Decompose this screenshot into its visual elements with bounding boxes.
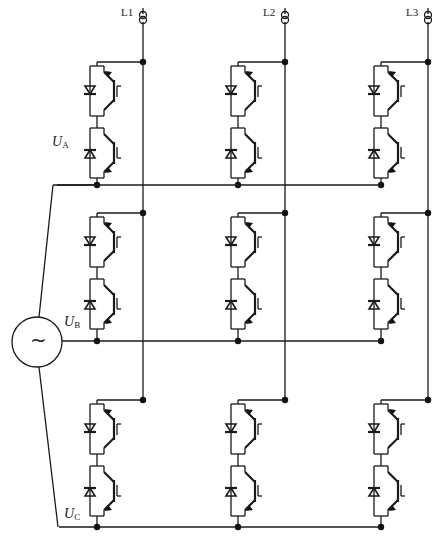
phase-label-symbol: U (64, 506, 74, 521)
lower-switch-igbt-icon (368, 279, 405, 329)
output-line-l3 (425, 8, 432, 400)
lower-switch-igbt-icon (368, 128, 405, 178)
junction-dot (425, 397, 431, 403)
bidirectional-switch (368, 397, 431, 530)
upper-switch-igbt-icon (225, 66, 262, 116)
junction-dot (140, 397, 146, 403)
bidirectional-switch (84, 397, 146, 530)
phase-label-b: UB (64, 314, 80, 330)
bidirectional-switch (84, 59, 146, 188)
output-label-l1: L1 (121, 6, 133, 18)
upper-switch-igbt-icon (368, 66, 405, 116)
phase-label-symbol: U (64, 314, 74, 329)
upper-switch-igbt-icon (84, 66, 121, 116)
source-lead-c (39, 367, 58, 527)
lower-switch-igbt-icon (225, 128, 262, 178)
source-lead-a (39, 185, 53, 317)
junction-dot (425, 210, 431, 216)
junction-dot (425, 59, 431, 65)
circuit-schematic (0, 0, 443, 539)
upper-switch-igbt-icon (225, 217, 262, 267)
lower-switch-igbt-icon (84, 128, 121, 178)
phase-row-c (59, 397, 431, 530)
junction-dot (140, 210, 146, 216)
junction-dot (140, 59, 146, 65)
upper-switch-igbt-icon (368, 217, 405, 267)
output-label-l2: L2 (263, 6, 275, 18)
junction-dot (282, 210, 288, 216)
bidirectional-switch (225, 59, 288, 188)
upper-switch-igbt-icon (84, 404, 121, 454)
phase-label-symbol: U (52, 134, 62, 149)
phase-label-c: UC (64, 506, 80, 522)
bidirectional-switch (368, 59, 431, 188)
bidirectional-switch (225, 397, 288, 530)
bidirectional-switch (84, 210, 146, 344)
upper-switch-igbt-icon (84, 217, 121, 267)
lower-switch-igbt-icon (225, 466, 262, 516)
upper-switch-igbt-icon (368, 404, 405, 454)
phase-label-subscript: A (62, 140, 69, 150)
lower-switch-igbt-icon (84, 279, 121, 329)
ac-symbol: ~ (30, 328, 47, 352)
phase-row-b (62, 210, 431, 344)
matrix-converter-diagram: L1L2L3UAUBUC~ (0, 0, 443, 539)
lower-switch-igbt-icon (368, 466, 405, 516)
phase-label-subscript: B (74, 320, 80, 330)
lower-switch-igbt-icon (84, 466, 121, 516)
bidirectional-switch (368, 210, 431, 344)
upper-switch-igbt-icon (225, 404, 262, 454)
junction-dot (282, 59, 288, 65)
lower-switch-igbt-icon (225, 279, 262, 329)
phase-label-a: UA (52, 134, 69, 150)
phase-row-a (57, 59, 431, 188)
junction-dot (282, 397, 288, 403)
phase-label-subscript: C (74, 512, 80, 522)
bidirectional-switch (225, 210, 288, 344)
output-label-l3: L3 (406, 6, 418, 18)
